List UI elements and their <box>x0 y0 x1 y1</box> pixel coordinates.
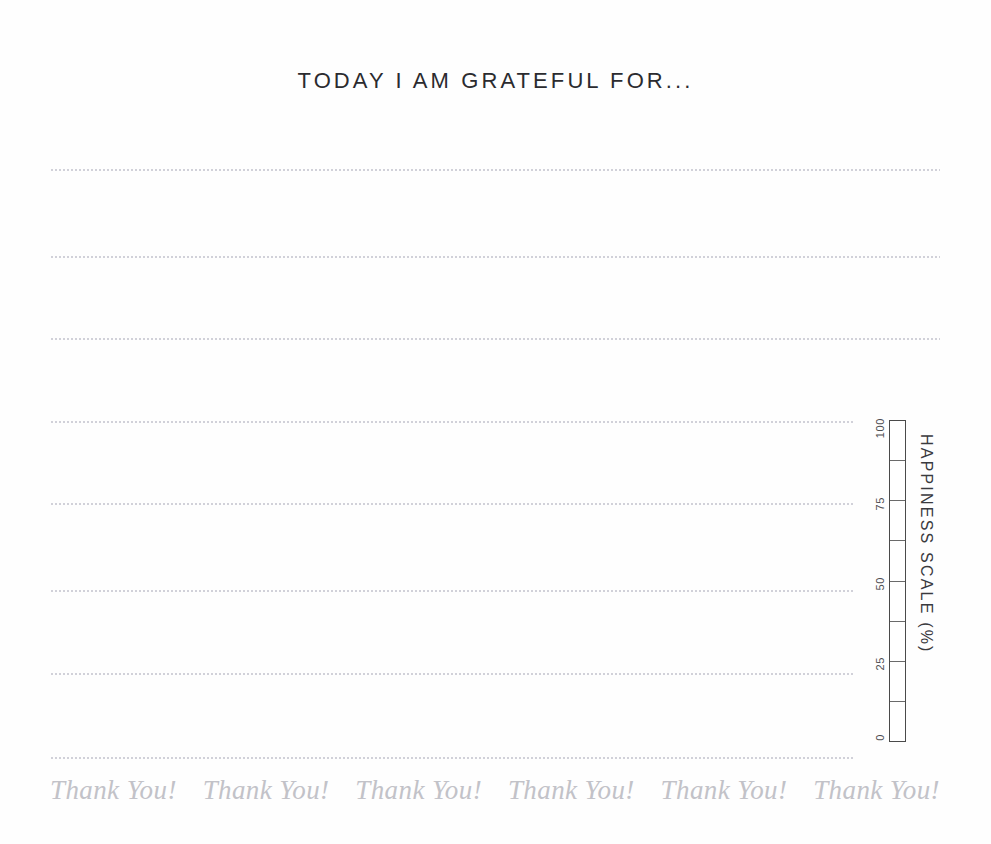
thank-you-text: Thank You! <box>508 775 635 806</box>
scale-segment[interactable] <box>890 461 905 501</box>
writing-line[interactable] <box>50 421 855 423</box>
happiness-scale-axis-title: HAPPINESS SCALE (%) <box>918 434 934 654</box>
writing-line[interactable] <box>50 256 940 258</box>
thank-you-text: Thank You! <box>813 775 940 806</box>
scale-segment[interactable] <box>890 421 905 461</box>
writing-line[interactable] <box>50 590 855 592</box>
scale-segment[interactable] <box>890 541 905 581</box>
thank-you-text: Thank You! <box>661 775 788 806</box>
scale-tick-label-25: 25 <box>875 657 886 670</box>
scale-segment[interactable] <box>890 662 905 702</box>
scale-segment[interactable] <box>890 622 905 662</box>
scale-segment[interactable] <box>890 501 905 541</box>
scale-tick-label-75: 75 <box>875 497 886 510</box>
thank-you-text: Thank You! <box>355 775 482 806</box>
page-title: TODAY I AM GRATEFUL FOR... <box>0 68 991 94</box>
thank-you-text: Thank You! <box>203 775 330 806</box>
writing-line[interactable] <box>50 757 855 759</box>
scale-segment[interactable] <box>890 582 905 622</box>
journal-page: TODAY I AM GRATEFUL FOR... 100 75 50 25 … <box>0 0 991 844</box>
happiness-scale-bar[interactable] <box>889 420 906 742</box>
writing-line[interactable] <box>50 503 855 505</box>
scale-segment[interactable] <box>890 702 905 741</box>
writing-line[interactable] <box>50 338 940 340</box>
scale-tick-label-100: 100 <box>875 418 886 438</box>
scale-tick-label-50: 50 <box>875 577 886 590</box>
writing-line[interactable] <box>50 673 855 675</box>
happiness-scale[interactable]: 100 75 50 25 0 HAPPINESS SCALE (%) <box>862 412 962 752</box>
thank-you-row: Thank You! Thank You! Thank You! Thank Y… <box>50 775 940 819</box>
writing-line[interactable] <box>50 169 940 171</box>
thank-you-text: Thank You! <box>50 775 177 806</box>
scale-tick-label-0: 0 <box>875 734 886 741</box>
